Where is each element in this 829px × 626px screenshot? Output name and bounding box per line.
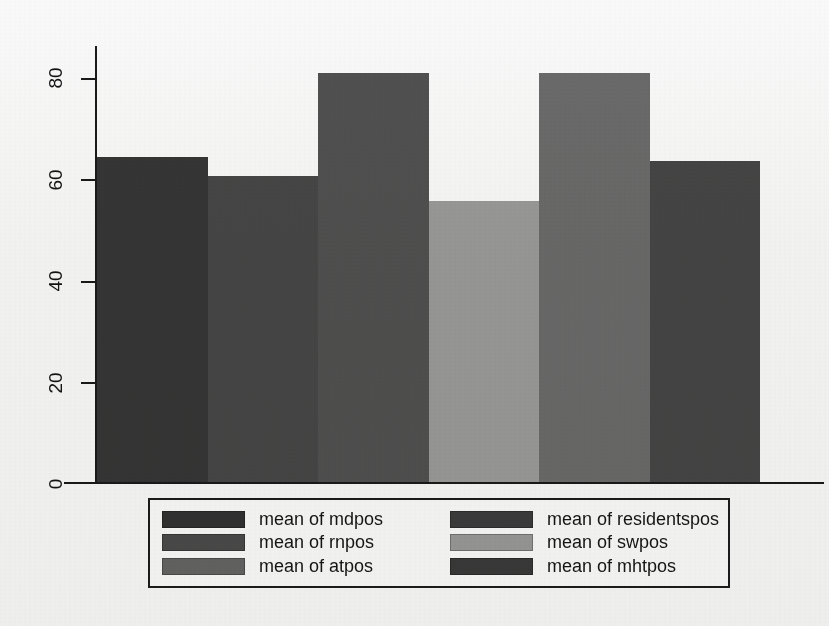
bar-atpos	[318, 73, 429, 482]
legend-item-swpos: mean of swpos	[450, 531, 718, 554]
legend-column-right: mean of residentspos mean of swpos mean …	[450, 508, 718, 578]
legend-column-left: mean of mdpos mean of rnpos mean of atpo…	[162, 508, 450, 578]
legend-item-mhtpos: mean of mhtpos	[450, 555, 718, 578]
legend-item-rnpos: mean of rnpos	[162, 531, 450, 554]
bar-rnpos	[208, 176, 319, 482]
y-tick-label-80-text: 80	[45, 67, 67, 88]
bar-mdpos	[97, 157, 208, 483]
legend-label-mhtpos: mean of mhtpos	[547, 556, 676, 577]
y-tick-label-20-text: 20	[45, 372, 67, 393]
y-tick-label-0-text: 0	[45, 479, 67, 490]
legend-item-mdpos: mean of mdpos	[162, 508, 450, 531]
chart-legend: mean of mdpos mean of rnpos mean of atpo…	[148, 498, 730, 588]
y-tick-label-80: 80	[36, 68, 76, 88]
legend-label-mdpos: mean of mdpos	[259, 509, 383, 530]
bar-chart-figure: 80 60 40 20 0 mean o	[0, 0, 829, 626]
bar-swpos	[429, 201, 540, 482]
legend-item-residentspos: mean of residentspos	[450, 508, 718, 531]
legend-swatch-mhtpos	[450, 558, 533, 575]
y-tick-label-0: 0	[36, 474, 76, 494]
y-axis-line	[95, 46, 97, 484]
legend-label-atpos: mean of atpos	[259, 556, 373, 577]
legend-label-swpos: mean of swpos	[547, 532, 668, 553]
x-axis-line	[64, 482, 824, 484]
y-tick-mark-60	[81, 179, 95, 181]
legend-item-atpos: mean of atpos	[162, 555, 450, 578]
bar-residentspos	[539, 73, 650, 482]
bar-series	[97, 48, 760, 482]
y-tick-label-20: 20	[36, 373, 76, 393]
legend-swatch-rnpos	[162, 534, 245, 551]
legend-swatch-atpos	[162, 558, 245, 575]
y-tick-label-60-text: 60	[45, 169, 67, 190]
y-tick-label-40-text: 40	[45, 270, 67, 291]
legend-label-residentspos: mean of residentspos	[547, 509, 719, 530]
legend-swatch-residentspos	[450, 511, 533, 528]
legend-label-rnpos: mean of rnpos	[259, 532, 374, 553]
y-tick-label-40: 40	[36, 271, 76, 291]
legend-swatch-mdpos	[162, 511, 245, 528]
y-tick-mark-40	[81, 281, 95, 283]
bar-mhtpos	[650, 161, 761, 482]
y-tick-mark-20	[81, 382, 95, 384]
plot-area	[97, 48, 760, 482]
y-tick-mark-80	[81, 78, 95, 80]
y-tick-label-60: 60	[36, 170, 76, 190]
legend-swatch-swpos	[450, 534, 533, 551]
